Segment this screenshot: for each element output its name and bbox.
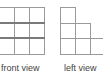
front-view-diagram <box>0 7 46 55</box>
left-cell <box>60 7 76 24</box>
left-cell <box>75 38 91 55</box>
front-cell <box>14 38 30 55</box>
front-view-label: front view <box>1 63 40 73</box>
front-divider <box>0 22 45 24</box>
left-cell <box>75 23 91 39</box>
left-view-label: left view <box>64 63 97 73</box>
front-divider <box>0 37 45 39</box>
left-cell <box>60 23 76 39</box>
front-cell <box>0 38 15 55</box>
front-cell <box>29 38 45 55</box>
left-view-diagram <box>60 7 103 55</box>
left-cell <box>60 38 76 55</box>
left-cell <box>90 38 103 55</box>
